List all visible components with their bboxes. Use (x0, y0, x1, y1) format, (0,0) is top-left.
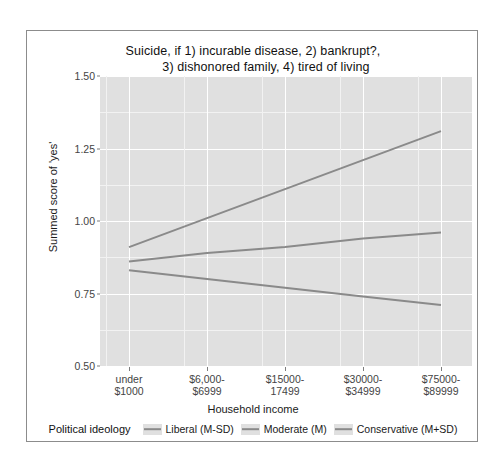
legend-line-key-icon (143, 424, 162, 435)
chart-title-line-1: Suicide, if 1) incurable disease, 2) ban… (126, 44, 381, 58)
y-axis-title: Summed score of 'yes' (47, 107, 59, 287)
x-tick-mark (129, 367, 130, 371)
legend-item-liberal[interactable]: Liberal (M-SD) (143, 423, 234, 435)
x-tick-label-line-2: 17499 (242, 385, 328, 397)
y-tick-label: 1.00 (61, 215, 95, 227)
legend-label: Liberal (M-SD) (166, 423, 234, 435)
figure-frame: Suicide, if 1) incurable disease, 2) ban… (26, 30, 478, 442)
series-line (129, 131, 441, 247)
x-tick-label: $30000- $34999 (320, 373, 406, 397)
x-tick-mark (285, 367, 286, 371)
legend: Political ideology Liberal (M-SD) Modera… (27, 423, 479, 435)
y-tick-label: 1.50 (61, 70, 95, 82)
legend-item-conservative[interactable]: Conservative (M+SD) (334, 423, 458, 435)
legend-line-key-icon (334, 424, 353, 435)
series-lines (100, 76, 472, 366)
x-tick-label: $15000- 17499 (242, 373, 328, 397)
y-tick-label: 0.75 (61, 288, 95, 300)
legend-line-key-icon (241, 424, 260, 435)
y-tick-label: 1.25 (61, 143, 95, 155)
legend-item-moderate[interactable]: Moderate (M) (241, 423, 327, 435)
legend-title: Political ideology (49, 423, 131, 435)
x-axis-title: Household income (27, 403, 479, 415)
x-tick-label-line-2: $89999 (398, 385, 484, 397)
x-tick-label: $75000- $89999 (398, 373, 484, 397)
x-tick-label-line-2: $34999 (320, 385, 406, 397)
x-tick-mark (363, 367, 364, 371)
legend-label: Moderate (M) (264, 423, 327, 435)
x-tick-label-line-1: $15000- (242, 373, 328, 385)
x-tick-label-line-2: $6999 (164, 385, 250, 397)
x-tick-label-line-1: under (86, 373, 172, 385)
y-axis-tick-labels: 1.50 1.25 1.00 0.75 0.50 (59, 76, 95, 366)
x-tick-label-line-1: $6,000- (164, 373, 250, 385)
x-tick-mark (441, 367, 442, 371)
x-tick-mark (207, 367, 208, 371)
series-line (129, 270, 441, 305)
series-line (129, 233, 441, 262)
x-tick-label-line-1: $30000- (320, 373, 406, 385)
x-tick-label-line-2: $1000 (86, 385, 172, 397)
chart-screenshot: Suicide, if 1) incurable disease, 2) ban… (0, 0, 504, 460)
x-tick-label: $6,000- $6999 (164, 373, 250, 397)
x-tick-label-line-1: $75000- (398, 373, 484, 385)
plot-panel (100, 76, 472, 366)
x-tick-label: under $1000 (86, 373, 172, 397)
legend-label: Conservative (M+SD) (357, 423, 458, 435)
y-tick-label: 0.50 (61, 360, 95, 372)
